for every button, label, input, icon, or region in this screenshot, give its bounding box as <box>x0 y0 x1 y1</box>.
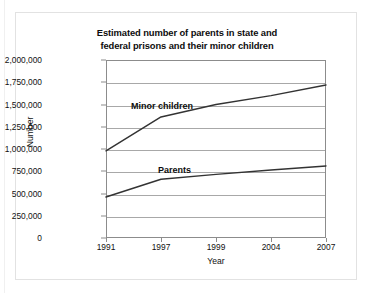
y-tick-label: 1,500,000 <box>0 100 42 110</box>
y-tick-label: 750,000 <box>0 166 42 176</box>
y-tick-label: 1,250,000 <box>0 122 42 132</box>
chart-title: Estimated number of parents in state and… <box>36 27 338 52</box>
x-tick-mark <box>271 238 272 242</box>
y-tick-label: 250,000 <box>0 211 42 221</box>
x-tick-label: 2007 <box>302 242 350 252</box>
x-tick-label: 2004 <box>247 242 295 252</box>
x-tick-mark <box>326 238 327 242</box>
series-line-parents <box>106 166 326 197</box>
x-tick-label: 1997 <box>137 242 185 252</box>
chart-title-line-1: Estimated number of parents in state and <box>36 27 338 40</box>
x-tick-label: 1991 <box>82 242 130 252</box>
x-tick-label: 1999 <box>192 242 240 252</box>
chart-figure-frame: Estimated number of parents in state and… <box>15 12 357 280</box>
y-tick-label: 1,750,000 <box>0 77 42 87</box>
series-line-minor-children <box>106 85 326 151</box>
series-label-minor-children: Minor children <box>131 101 193 111</box>
y-tick-label: 500,000 <box>0 189 42 199</box>
y-tick-label: 0 <box>0 233 42 243</box>
x-tick-mark <box>216 238 217 242</box>
y-tick-label: 1,000,000 <box>0 144 42 154</box>
series-lines <box>106 60 326 238</box>
y-tick-label: 2,000,000 <box>0 55 42 65</box>
x-tick-mark <box>106 238 107 242</box>
series-label-parents: Parents <box>158 165 191 175</box>
x-axis-title: Year <box>106 256 326 266</box>
chart-title-line-2: federal prisons and their minor children <box>36 40 338 53</box>
x-tick-mark <box>161 238 162 242</box>
